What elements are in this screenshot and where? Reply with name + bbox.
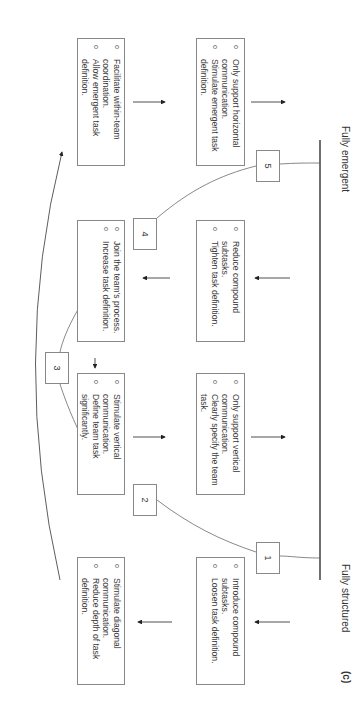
bullet: o	[80, 45, 101, 59]
box-only-vertical: oOnly support vertical communication. oC…	[196, 373, 245, 495]
bullet: o	[101, 45, 122, 59]
bullet: o	[210, 564, 221, 578]
axis-end-label: Fully emergent	[340, 126, 351, 192]
stage-3-box: 3	[45, 352, 69, 384]
box-facilitate-coordination: oFacilitate within-team coordination. oA…	[77, 38, 125, 166]
box-introduce-compound: oIntroduce compound subtasks. oLoosen ta…	[196, 557, 245, 685]
bullet: o	[220, 380, 241, 394]
box-only-horizontal: oOnly support horizontal communication. …	[196, 38, 245, 166]
stage-2-box: 2	[133, 484, 157, 516]
figure-label: (c)	[341, 671, 352, 683]
box-join-team-process: oJoin the team's process. oIncrease task…	[77, 220, 125, 342]
box-stimulate-diagonal: oStimulate diagonal communication. oRedu…	[77, 557, 125, 685]
bullet: o	[199, 45, 220, 59]
bullet: o	[101, 227, 112, 241]
axis-start-label: Fully structured	[340, 564, 351, 632]
bullet: o	[199, 380, 220, 394]
box-reduce-compound: oReduce compound subtasks. oTighten task…	[196, 220, 245, 342]
stage-curve	[280, 163, 320, 164]
bullet: o	[80, 380, 101, 394]
stage-5-box: 5	[256, 150, 280, 182]
stage-curve	[157, 166, 256, 218]
stage-1-box: 1	[256, 542, 280, 574]
stage-curve	[157, 500, 256, 552]
bullet: o	[220, 564, 241, 578]
bullet: o	[112, 227, 123, 241]
box-stimulate-vertical: oStimulate vertical communication. oDefi…	[77, 373, 125, 495]
bullet: o	[220, 45, 241, 59]
bullet: o	[80, 564, 101, 578]
bullet: o	[210, 227, 221, 241]
bullet: o	[101, 564, 122, 578]
stage-curve	[280, 556, 320, 558]
bullet: o	[101, 380, 122, 394]
stage-4-box: 4	[133, 218, 157, 250]
bullet: o	[220, 227, 241, 241]
